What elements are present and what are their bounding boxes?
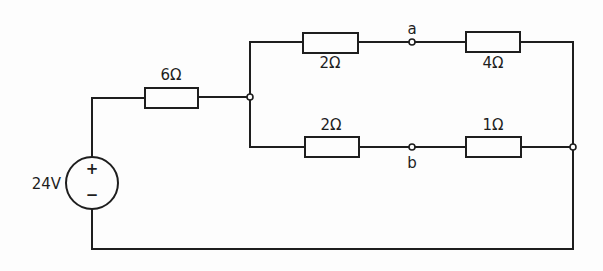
wire-left-node-top	[250, 42, 303, 94]
resistor-top-2ohm	[303, 33, 358, 53]
node-a-label: a	[407, 20, 416, 38]
resistor-1ohm	[466, 137, 521, 157]
source-minus-sign: −	[86, 186, 99, 204]
resistor-6ohm	[145, 88, 198, 108]
resistor-bottom-2ohm-label: 2Ω	[320, 116, 341, 134]
node-a	[409, 39, 415, 45]
node-b	[409, 144, 415, 150]
resistor-bottom-2ohm	[305, 137, 359, 157]
resistor-4ohm-label: 4Ω	[482, 54, 503, 72]
resistor-6ohm-label: 6Ω	[160, 66, 181, 84]
source-label: 24V	[32, 175, 62, 193]
circuit-diagram: + − 24V 6Ω 2Ω 4Ω 2Ω 1Ω a b	[0, 0, 603, 271]
left-junction-node	[247, 94, 253, 100]
wire-source-to-6ohm	[92, 98, 145, 157]
circuit-svg: + − 24V 6Ω 2Ω 4Ω 2Ω 1Ω a b	[0, 0, 603, 271]
resistor-top-2ohm-label: 2Ω	[319, 54, 340, 72]
node-b-label: b	[407, 154, 417, 172]
wire-left-node-bottom	[250, 100, 305, 147]
wire-4ohm-to-right	[520, 42, 573, 144]
resistor-4ohm	[466, 32, 520, 52]
source-plus-sign: +	[86, 160, 99, 178]
wire-return	[92, 150, 573, 249]
right-junction-node	[570, 144, 576, 150]
resistor-1ohm-label: 1Ω	[482, 116, 503, 134]
